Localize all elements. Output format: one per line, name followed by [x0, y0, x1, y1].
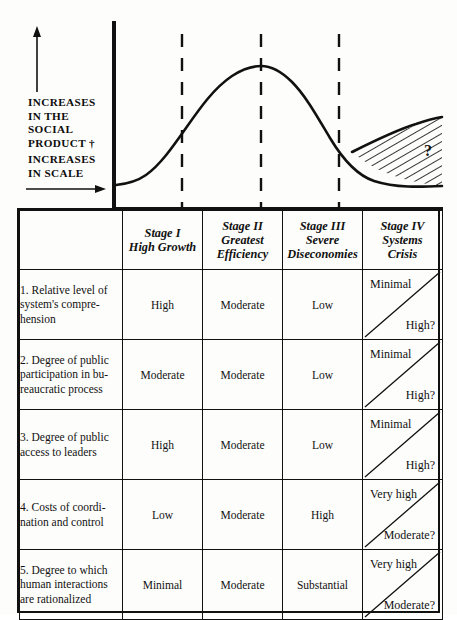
- value-cell-stage4-split: Very high Moderate?: [363, 550, 443, 620]
- value-cell-stage4-split: Very high Moderate?: [363, 480, 443, 550]
- value-cell-stage2: Moderate: [203, 550, 283, 620]
- value-cell-stage3: Low: [283, 410, 363, 480]
- social-product-chart: ? INCREASES IN THE SOCIAL PRODUCT † INCR…: [0, 0, 457, 212]
- value-cell-stage4-split: Minimal High?: [363, 340, 443, 410]
- table-row: 1. Relative level of system's compre- he…: [20, 270, 443, 340]
- table-row: 2. Degree of public participation in bu-…: [20, 340, 443, 410]
- header-cell-stage2: Stage II Greatest Efficiency: [203, 211, 283, 270]
- stage4-upper-value: Minimal: [370, 277, 411, 292]
- stage4-upper-value: Very high: [370, 487, 417, 502]
- x-axis-arrow: [26, 185, 106, 193]
- stage4-upper-value: Minimal: [370, 347, 411, 362]
- value-cell-stage1: High: [123, 270, 203, 340]
- x-axis-label: INCREASES IN SCALE: [28, 153, 113, 180]
- value-cell-stage3: High: [283, 480, 363, 550]
- value-cell-stage4-split: Minimal High?: [363, 270, 443, 340]
- stage3-label-line-3: Diseconomies: [283, 247, 362, 261]
- y-axis-arrow: [33, 26, 41, 92]
- criterion-cell: 4. Costs of coordi- nation and control: [20, 480, 123, 550]
- stage2-label-line-2: Greatest: [203, 233, 282, 247]
- value-cell-stage1: Minimal: [123, 550, 203, 620]
- stage1-label-line-2: High Growth: [123, 240, 202, 254]
- header-cell-stage1: Stage I High Growth: [123, 211, 203, 270]
- value-cell-stage1: Low: [123, 480, 203, 550]
- value-cell-stage1: High: [123, 410, 203, 480]
- stage4-lower-value: High?: [406, 388, 435, 403]
- uncertainty-question-mark: ?: [424, 142, 432, 159]
- stage4-lower-value: High?: [406, 318, 435, 333]
- criterion-cell: 1. Relative level of system's compre- he…: [20, 270, 123, 340]
- criterion-text: 4. Costs of coordi- nation and control: [20, 500, 122, 529]
- value-cell-stage3: Low: [283, 270, 363, 340]
- criterion-cell: 5. Degree to which human interactions ar…: [20, 550, 123, 620]
- criterion-text: 5. Degree to which human interactions ar…: [20, 563, 122, 606]
- value-cell-stage2: Moderate: [203, 340, 283, 410]
- header-cell-stage3: Stage III Severe Diseconomies: [283, 211, 363, 270]
- stage4-label-line-2: Systems: [363, 233, 442, 247]
- y-axis-label: INCREASES IN THE SOCIAL PRODUCT †: [28, 96, 113, 150]
- table-row: 5. Degree to which human interactions ar…: [20, 550, 443, 620]
- stage2-label-line-3: Efficiency: [203, 247, 282, 261]
- stage4-label-line-1: Stage IV: [363, 219, 442, 233]
- criterion-text: 1. Relative level of system's compre- he…: [20, 283, 122, 326]
- stage3-label-line-2: Severe: [283, 233, 362, 247]
- stage1-label-line-1: Stage I: [123, 226, 202, 240]
- table-row: 4. Costs of coordi- nation and control L…: [20, 480, 443, 550]
- header-cell-stage4: Stage IV Systems Crisis: [363, 211, 443, 270]
- criterion-text: 3. Degree of public access to leaders: [20, 430, 122, 459]
- stage2-label-line-1: Stage II: [203, 219, 282, 233]
- header-cell-criterion: [20, 211, 123, 270]
- criterion-text: 2. Degree of public participation in bu-…: [20, 353, 122, 396]
- stage4-upper-value: Minimal: [370, 417, 411, 432]
- table-row: 3. Degree of public access to leaders Hi…: [20, 410, 443, 480]
- stage4-lower-value: Moderate?: [384, 598, 435, 613]
- stage4-lower-value: High?: [406, 458, 435, 473]
- value-cell-stage2: Moderate: [203, 410, 283, 480]
- value-cell-stage1: Moderate: [123, 340, 203, 410]
- stage4-upper-value: Very high: [370, 557, 417, 572]
- value-cell-stage3: Low: [283, 340, 363, 410]
- value-cell-stage4-split: Minimal High?: [363, 410, 443, 480]
- stage4-lower-value: Moderate?: [384, 528, 435, 543]
- stage3-label-line-1: Stage III: [283, 219, 362, 233]
- criterion-cell: 3. Degree of public access to leaders: [20, 410, 123, 480]
- table-header-row: Stage I High Growth Stage II Greatest Ef…: [20, 211, 443, 270]
- criterion-cell: 2. Degree of public participation in bu-…: [20, 340, 123, 410]
- value-cell-stage2: Moderate: [203, 270, 283, 340]
- stage4-label-line-3: Crisis: [363, 247, 442, 261]
- stages-matrix-table: Stage I High Growth Stage II Greatest Ef…: [17, 208, 440, 613]
- value-cell-stage2: Moderate: [203, 480, 283, 550]
- value-cell-stage3: Substantial: [283, 550, 363, 620]
